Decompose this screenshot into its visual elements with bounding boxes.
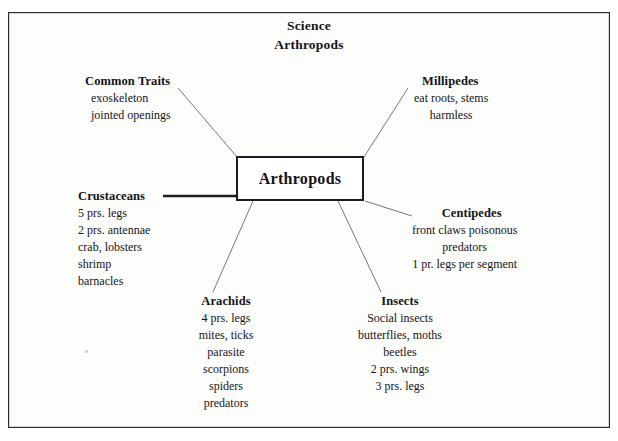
node-insects-heading: Insects: [338, 294, 462, 309]
node-crustaceans-heading: Crustaceans: [78, 189, 150, 204]
central-node-arthropods: Arthropods: [236, 156, 364, 201]
node-detail-line: 3 prs. legs: [338, 378, 462, 395]
node-millipedes: Millipedes eat roots, stemsharmless: [414, 74, 488, 124]
node-detail-line: predators: [412, 239, 517, 256]
node-common-traits: Common Traits exoskeletonjointed opening…: [85, 74, 171, 124]
node-centipedes-heading: Centipedes: [412, 206, 517, 221]
node-detail-line: predators: [170, 395, 282, 412]
page-title-line1: Science: [0, 18, 618, 34]
node-detail-line: Social insects: [338, 310, 462, 327]
node-insects-lines: Social insectsbutterflies, mothsbeetles2…: [338, 310, 462, 395]
node-detail-line: 2 prs. antennae: [78, 222, 150, 239]
node-arachids-lines: 4 prs. legsmites, ticksparasitescorpions…: [170, 310, 282, 412]
node-arachids-heading: Arachids: [170, 294, 282, 309]
page-title-line2: Arthropods: [0, 37, 618, 53]
node-millipedes-lines: eat roots, stemsharmless: [414, 90, 488, 124]
node-insects: Insects Social insectsbutterflies, moths…: [338, 294, 462, 395]
node-detail-line: 1 pr. legs per segment: [412, 256, 517, 273]
node-arachids: Arachids 4 prs. legsmites, ticksparasite…: [170, 294, 282, 412]
central-node-label: Arthropods: [259, 170, 342, 188]
node-detail-line: crab, lobsters: [78, 239, 150, 256]
node-centipedes: Centipedes front claws poisonouspredator…: [412, 206, 517, 273]
node-detail-line: beetles: [338, 344, 462, 361]
node-common-traits-lines: exoskeletonjointed openings: [85, 90, 171, 124]
node-detail-line: 2 prs. wings: [338, 361, 462, 378]
node-millipedes-heading: Millipedes: [414, 74, 488, 89]
node-detail-line: 5 prs. legs: [78, 205, 150, 222]
node-detail-line: exoskeleton: [91, 90, 171, 107]
node-detail-line: front claws poisonous: [412, 222, 517, 239]
scan-artifact-speck: [85, 350, 88, 353]
node-crustaceans-lines: 5 prs. legs2 prs. antennaecrab, lobsters…: [78, 205, 150, 290]
node-common-traits-heading: Common Traits: [85, 74, 171, 89]
node-crustaceans: Crustaceans 5 prs. legs2 prs. antennaecr…: [78, 189, 150, 290]
node-detail-line: scorpions: [170, 361, 282, 378]
node-detail-line: mites, ticks: [170, 327, 282, 344]
node-detail-line: harmless: [414, 107, 488, 124]
node-detail-line: eat roots, stems: [414, 90, 488, 107]
node-detail-line: barnacles: [78, 273, 150, 290]
node-centipedes-lines: front claws poisonouspredators1 pr. legs…: [412, 222, 517, 273]
node-detail-line: shrimp: [78, 256, 150, 273]
node-detail-line: spiders: [170, 378, 282, 395]
node-detail-line: 4 prs. legs: [170, 310, 282, 327]
node-detail-line: butterflies, moths: [338, 327, 462, 344]
diagram-page: Science Arthropods Arthropods Common Tra…: [0, 0, 618, 441]
node-detail-line: jointed openings: [91, 107, 171, 124]
node-detail-line: parasite: [170, 344, 282, 361]
